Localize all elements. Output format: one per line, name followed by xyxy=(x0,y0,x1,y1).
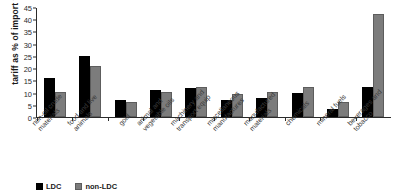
x-axis-label-slot: machinery andtransport equip xyxy=(178,120,214,182)
y-axis-tick-mark xyxy=(33,93,36,94)
legend-swatch xyxy=(36,183,43,190)
y-axis-tick-mark xyxy=(33,8,36,9)
y-axis-tick-mark xyxy=(33,56,36,57)
x-axis-label-slot: gold xyxy=(107,120,143,182)
bar-chart: tariff as % of import values 05101520253… xyxy=(0,0,403,195)
legend-item-non-ldc[interactable]: non-LDC xyxy=(75,182,117,191)
x-axis-label-slot: beverages andtobacco xyxy=(356,120,392,182)
y-axis-title: tariff as % of import values xyxy=(10,0,20,89)
y-axis-tick-mark xyxy=(33,32,36,33)
x-axis-label-slot: mineral fuels xyxy=(320,120,356,182)
legend-swatch xyxy=(75,183,82,190)
y-axis-tick-label: 5 xyxy=(28,101,32,110)
y-axis-tick-mark xyxy=(33,20,36,21)
y-axis-tick-label: 10 xyxy=(24,89,32,98)
x-axis-category-labels: non-oil crudematerialsfood and liveanima… xyxy=(36,120,391,182)
legend-label: LDC xyxy=(46,182,61,191)
y-axis-tick-label: 35 xyxy=(24,28,32,37)
y-axis-tick-label: 20 xyxy=(24,65,32,74)
y-axis-tick-mark xyxy=(33,69,36,70)
x-axis-label-slot: chemicals xyxy=(285,120,321,182)
bar-group xyxy=(108,8,143,117)
y-axis-tick-label: 15 xyxy=(24,77,32,86)
y-axis-tick-label: 30 xyxy=(24,40,32,49)
legend-label: non-LDC xyxy=(85,182,117,191)
y-axis-tick-label: 25 xyxy=(24,52,32,61)
y-axis-tick-mark xyxy=(33,44,36,45)
x-axis-label-slot: manufacturedmaterials xyxy=(249,120,285,182)
y-axis-tick-mark xyxy=(33,105,36,106)
x-axis-label-slot: miscellaneousmanufactures xyxy=(214,120,250,182)
y-axis-tick-label: 40 xyxy=(24,16,32,25)
x-axis-label-slot: non-oil crudematerials xyxy=(36,120,72,182)
legend-item-ldc[interactable]: LDC xyxy=(36,182,61,191)
y-axis-tick-mark xyxy=(33,81,36,82)
x-axis-label-slot: food and liveanimals xyxy=(72,120,108,182)
chart-legend: LDCnon-LDC xyxy=(36,182,117,191)
x-axis-label-slot: animal andvegetable oils xyxy=(143,120,179,182)
y-axis-tick-label: 45 xyxy=(24,4,32,13)
